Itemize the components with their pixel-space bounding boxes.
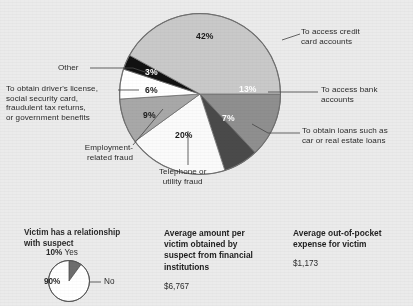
callout-license-line2: social security card,	[6, 94, 98, 104]
mini-yes-pct: 10%	[46, 248, 62, 257]
callout-credit-card: To access credit card accounts	[301, 27, 360, 46]
stat-average-amount: Average amount per victim obtained by su…	[164, 228, 274, 291]
callout-employment-line2: related fraud	[55, 153, 133, 163]
mini-chart-title: Victim has a relationship with suspect	[24, 228, 120, 250]
callout-bank-accounts: To access bank accounts	[321, 85, 378, 104]
identity-theft-figure: 42% 13% 7% 20% 9% 6% 3% To access credit…	[0, 0, 413, 306]
callout-license-line4: or government benefits	[6, 113, 98, 123]
mini-yes-text: Yes	[65, 248, 78, 257]
callout-other: Other	[58, 63, 79, 73]
mini-chart-title-line1: Victim has a relationship	[24, 228, 120, 237]
pie-value-loans: 7%	[222, 113, 235, 123]
callout-license: To obtain driver's license, social secur…	[6, 84, 98, 122]
stat1-line3: suspect from financial	[164, 250, 253, 260]
stat2-line1: Average out-of-pocket	[293, 228, 382, 238]
callout-telephone-line1: Telephone or	[159, 167, 206, 177]
stat1-line2: victim obtained by	[164, 239, 238, 249]
mini-no-pct-label: 90%	[44, 277, 60, 286]
stat1-line4: institutions	[164, 262, 209, 272]
stat1-line1: Average amount per	[164, 228, 245, 238]
callout-credit-card-line1: To access credit	[301, 27, 360, 37]
callout-license-line3: fraudulent tax returns,	[6, 103, 98, 113]
pie-value-employment: 9%	[143, 110, 156, 120]
stat-out-of-pocket: Average out-of-pocket expense for victim…	[293, 228, 408, 268]
callout-telephone-line2: utility fraud	[159, 177, 206, 187]
stat2-line2: expense for victim	[293, 239, 367, 249]
callout-credit-card-line2: card accounts	[301, 37, 360, 47]
stat-average-amount-title: Average amount per victim obtained by su…	[164, 228, 274, 273]
mini-chart-title-line2: with suspect	[24, 239, 74, 248]
mini-yes-label: 10% Yes	[46, 248, 78, 257]
pie-value-bank: 13%	[239, 84, 257, 94]
callout-bank-line1: To access bank	[321, 85, 378, 95]
pie-value-license: 6%	[145, 85, 158, 95]
callout-other-line1: Other	[58, 63, 79, 73]
callout-telephone: Telephone or utility fraud	[159, 167, 206, 186]
pie-value-other: 3%	[145, 67, 158, 77]
pie-value-credit-card: 42%	[196, 31, 214, 41]
callout-license-line1: To obtain driver's license,	[6, 84, 98, 94]
pie-value-telephone: 20%	[175, 130, 193, 140]
callout-loans-line2: car or real estate loans	[302, 136, 388, 146]
mini-no-pct: 90%	[44, 277, 60, 286]
mini-no-text-label: No	[104, 277, 114, 286]
stat-average-amount-value: $6,767	[164, 282, 274, 291]
mini-no-text: No	[104, 277, 114, 286]
callout-loans-line1: To obtain loans such as	[302, 126, 388, 136]
stat-out-of-pocket-value: $1,173	[293, 259, 408, 268]
callout-loans: To obtain loans such as car or real esta…	[302, 126, 388, 145]
callout-bank-line2: accounts	[321, 95, 378, 105]
callout-employment: Employment- related fraud	[55, 143, 133, 162]
callout-employment-line1: Employment-	[55, 143, 133, 153]
stat-out-of-pocket-title: Average out-of-pocket expense for victim	[293, 228, 408, 250]
